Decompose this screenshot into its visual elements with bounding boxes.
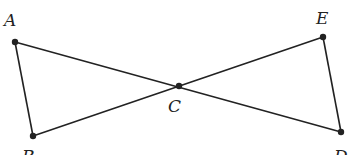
label-D: D [333, 146, 348, 155]
points [12, 34, 344, 139]
segment-AB [15, 42, 33, 136]
point-labels: ABCDE [2, 8, 348, 155]
label-B: B [21, 146, 35, 155]
point-D [338, 129, 344, 135]
geometry-diagram: ABCDE [0, 0, 349, 155]
label-A: A [2, 10, 16, 30]
point-A [12, 39, 18, 45]
label-C: C [168, 96, 181, 116]
bowtie-triangles-figure: ABCDE [0, 0, 349, 155]
point-E [320, 34, 326, 40]
segment-ED [323, 37, 341, 132]
label-E: E [315, 8, 329, 28]
point-B [30, 133, 36, 139]
point-C [176, 83, 182, 89]
